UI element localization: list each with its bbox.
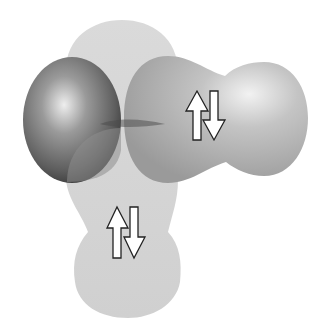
orbital-svg [0, 0, 322, 334]
orbital-diagram [0, 0, 322, 334]
